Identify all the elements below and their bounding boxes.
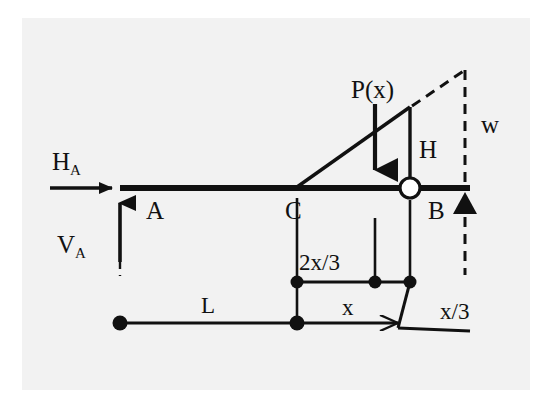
label-reaction-horizontal: HA xyxy=(52,149,81,174)
label-reaction-horizontal-base: H xyxy=(52,148,70,175)
label-centroid-left: 2x/3 xyxy=(299,251,340,274)
roller-support-b xyxy=(400,178,420,198)
label-node-c: C xyxy=(285,198,302,223)
label-load-height: H xyxy=(419,137,437,162)
label-reaction-horizontal-sub: A xyxy=(70,162,81,178)
leader-line-x3-diagonal xyxy=(398,282,410,328)
intensity-dashed-hypotenuse xyxy=(412,70,465,106)
support-triangle-b xyxy=(453,192,477,214)
leader-line-x3-horizontal xyxy=(398,328,470,331)
label-load-resultant: P(x) xyxy=(351,77,394,102)
label-span-total: L xyxy=(201,294,215,317)
figure-root: HA VA A C B P(x) H w 2x/3 x/3 L x xyxy=(0,0,552,406)
label-centroid-right: x/3 xyxy=(440,300,469,323)
dimension-dot-c-lower xyxy=(290,316,305,331)
label-reaction-vertical-base: V xyxy=(57,231,75,258)
dimension-dot-mid-upper xyxy=(369,276,382,289)
label-reaction-vertical: VA xyxy=(57,232,86,257)
load-triangle-hypotenuse xyxy=(297,107,410,187)
label-load-intensity: w xyxy=(481,112,499,137)
label-reaction-vertical-sub: A xyxy=(75,245,86,261)
label-node-a: A xyxy=(146,198,164,223)
dimension-dot-c-upper xyxy=(291,276,304,289)
beam-diagram-canvas xyxy=(0,0,552,406)
label-node-b: B xyxy=(428,198,445,223)
dimension-dot-a-lower xyxy=(113,316,128,331)
label-span-loaded: x xyxy=(342,296,354,319)
